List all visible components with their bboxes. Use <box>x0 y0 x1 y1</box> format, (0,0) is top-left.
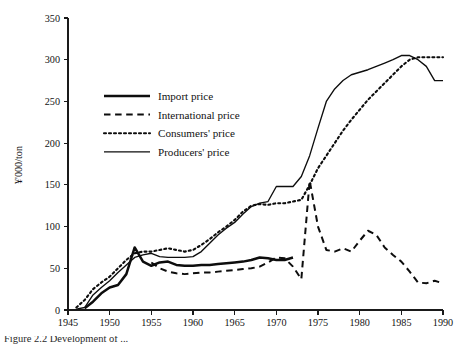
x-tick-label: 1975 <box>308 317 328 328</box>
line-chart: 050100150200250300350 194519501955196019… <box>0 0 456 347</box>
figure-root: 050100150200250300350 194519501955196019… <box>0 0 456 347</box>
y-tick-label: 100 <box>45 221 60 232</box>
x-axis-ticks: 1945195019551960196519701975198019851990 <box>58 310 453 328</box>
legend-label: Import price <box>158 90 213 102</box>
x-tick-label: 1990 <box>433 317 453 328</box>
y-axis-ticks: 050100150200250300350 <box>45 13 68 316</box>
y-tick-label: 0 <box>55 305 60 316</box>
x-tick-label: 1980 <box>349 317 369 328</box>
data-series-group <box>76 56 443 310</box>
y-tick-label: 250 <box>45 96 60 107</box>
x-tick-label: 1970 <box>266 317 286 328</box>
x-tick-label: 1965 <box>224 317 244 328</box>
y-axis-title: ¥'000/ton <box>13 146 24 184</box>
x-tick-label: 1950 <box>99 317 119 328</box>
figure-caption: Figure 2.2 Development of ... <box>4 336 128 344</box>
x-tick-label: 1960 <box>183 317 203 328</box>
y-tick-label: 300 <box>45 54 60 65</box>
x-tick-label: 1955 <box>141 317 161 328</box>
legend-label: International price <box>158 109 240 121</box>
figure-caption-strip: Figure 2.2 Development of ... <box>0 336 456 347</box>
series-line-international-price <box>151 181 443 284</box>
y-tick-label: 50 <box>50 263 60 274</box>
legend-label: Consumers' price <box>158 127 235 139</box>
chart-legend: Import priceInternational priceConsumers… <box>104 90 240 158</box>
y-tick-label: 350 <box>45 13 60 24</box>
y-tick-label: 150 <box>45 179 60 190</box>
legend-label: Producers' price <box>158 146 229 158</box>
series-line-producers-price <box>76 56 443 310</box>
x-tick-label: 1945 <box>58 317 78 328</box>
y-tick-label: 200 <box>45 138 60 149</box>
x-tick-label: 1985 <box>391 317 411 328</box>
